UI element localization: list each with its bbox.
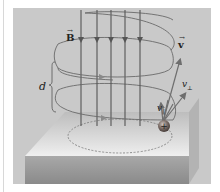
helical-motion-figure: + → B → v d v⊥ v∥ bbox=[13, 8, 211, 184]
vector-arrow-icon: → bbox=[67, 28, 73, 35]
pitch-bracket bbox=[49, 62, 56, 112]
svg-text:+: + bbox=[160, 121, 168, 131]
velocity-label: → v bbox=[178, 40, 184, 50]
magnetic-field-lines bbox=[81, 10, 140, 126]
vector-arrow-icon: → bbox=[179, 35, 185, 42]
platform bbox=[25, 98, 199, 184]
v-perpendicular-label: v⊥ bbox=[182, 80, 193, 91]
magnetic-field-label: → B bbox=[66, 33, 74, 43]
positive-charge: + bbox=[158, 120, 170, 132]
page-edge-rule bbox=[3, 0, 4, 192]
v-parallel-label: v∥ bbox=[157, 104, 165, 115]
pitch-label: d bbox=[39, 81, 46, 92]
